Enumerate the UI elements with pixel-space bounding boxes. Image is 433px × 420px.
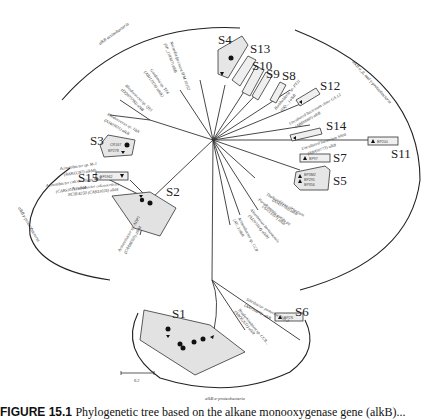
clone-label: BP3M2 (304, 173, 316, 177)
clone-label: EF5962 (100, 175, 113, 179)
group-label-alpha: alkB α-proteobacteria (205, 396, 246, 401)
scale-bar: 0.2 (121, 371, 154, 383)
caption-text: Phylogenetic tree based on the alkane mo… (75, 405, 405, 419)
cluster-label-S2: S2 (166, 184, 180, 199)
cluster-label-S8: S8 (282, 68, 296, 83)
cluster-label-S5: S5 (333, 173, 347, 188)
clone-circle-icon (229, 56, 234, 61)
clone-label: BP278 (108, 149, 119, 153)
cluster-label-S6: S6 (295, 304, 309, 319)
cluster-S12 (296, 88, 320, 106)
clone-label: CR167 (110, 143, 121, 147)
clone-circle-icon (178, 342, 183, 347)
clone-circle-icon (166, 327, 171, 332)
group-label-actinobacteria: alkB actinobacteria (98, 21, 131, 46)
caption-label: FIGURE 15.1 (0, 405, 72, 419)
cluster-label-S12: S12 (320, 78, 340, 93)
group-label-beta-gamma: alkB α, β, and γ-proteobacteria (351, 59, 394, 105)
cluster-label-S4: S4 (218, 32, 232, 47)
cluster-label-S14: S14 (326, 118, 347, 133)
clone-circle-icon (125, 143, 130, 148)
group-label-gamma: alkB γ-proteobacteria (17, 206, 41, 243)
clone-label: BP295 (304, 178, 315, 182)
cluster-label-S9: S9 (266, 66, 280, 81)
clone-circle-icon (140, 198, 144, 202)
figure-caption: FIGURE 15.1 Phylogenetic tree based on t… (0, 405, 406, 420)
cluster-label-S7: S7 (333, 150, 347, 165)
clone-circle-icon (181, 346, 186, 351)
clone-circle-icon (148, 201, 153, 206)
cluster-label-S13: S13 (250, 41, 270, 56)
cluster-label-S11: S11 (391, 146, 411, 161)
cluster-label-S1: S1 (172, 306, 186, 321)
clone-label: BP97 (309, 157, 318, 161)
arc-actinobacteria (62, 28, 240, 100)
svg-text:0.2: 0.2 (134, 378, 139, 383)
clone-label: BP200 (377, 140, 388, 144)
clone-circle-icon (192, 340, 197, 345)
cluster-label-S3: S3 (90, 133, 104, 148)
clone-circle-icon (201, 337, 206, 342)
clone-label: BP356 (304, 183, 315, 187)
